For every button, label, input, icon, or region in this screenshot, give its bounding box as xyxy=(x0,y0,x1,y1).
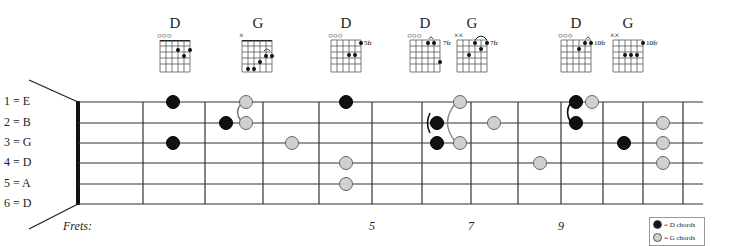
g-chord-dot xyxy=(240,96,253,109)
frets-label: Frets: xyxy=(63,219,92,234)
gray-dot-icon xyxy=(653,233,662,242)
string-label-1: 1 = E xyxy=(4,94,64,109)
g-chord-dot xyxy=(340,178,353,191)
d-chord-dot xyxy=(340,96,353,109)
string-label-2: 2 = B xyxy=(4,115,64,130)
g-chord-dot xyxy=(488,117,501,130)
string-label-4: 4 = D xyxy=(4,155,64,170)
legend-label: = D chords xyxy=(664,221,695,229)
string-label-6: 6 = D xyxy=(4,196,64,211)
g-chord-dot xyxy=(454,96,467,109)
g-chord-dot xyxy=(534,157,547,170)
fret-number-7: 7 xyxy=(468,219,474,234)
legend-item-d: = D chords xyxy=(650,218,704,231)
g-chord-dot xyxy=(657,157,670,170)
d-chord-dot xyxy=(570,96,583,109)
d-chord-dot xyxy=(167,137,180,150)
legend-label: = G chords xyxy=(664,234,695,242)
fret-number-9: 9 xyxy=(558,219,564,234)
g-chord-dot xyxy=(657,117,670,130)
string-label-5: 5 = A xyxy=(4,176,64,191)
d-chord-dot xyxy=(220,117,233,130)
d-chord-dot xyxy=(618,137,631,150)
d-chord-dot xyxy=(431,117,444,130)
g-chord-dot xyxy=(657,137,670,150)
legend-item-g: = G chords xyxy=(650,231,704,244)
g-chord-dot xyxy=(286,137,299,150)
legend: = D chords = G chords xyxy=(649,217,705,246)
string-label-3: 3 = G xyxy=(4,135,64,150)
d-chord-dot xyxy=(570,117,583,130)
g-chord-dot xyxy=(454,137,467,150)
d-chord-dot xyxy=(431,137,444,150)
black-dot-icon xyxy=(653,220,662,229)
g-chord-dot xyxy=(586,96,599,109)
d-chord-dot xyxy=(167,96,180,109)
g-chord-dot xyxy=(240,117,253,130)
g-chord-dot xyxy=(340,157,353,170)
fret-number-5: 5 xyxy=(369,219,375,234)
